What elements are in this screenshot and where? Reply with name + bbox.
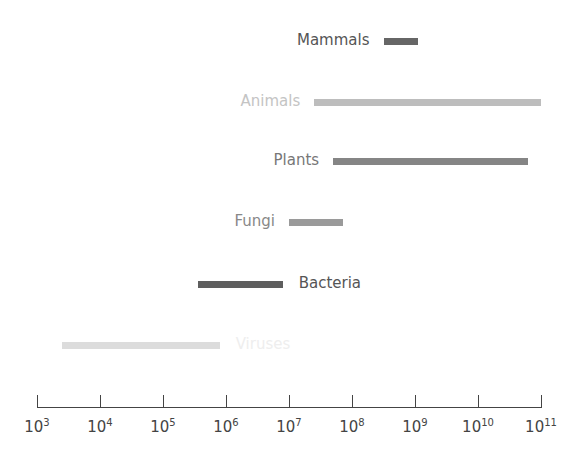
row-label-plants: Plants — [274, 151, 320, 169]
x-axis-tick-label: 109 — [402, 417, 427, 436]
range-bar-animals — [314, 99, 541, 106]
row-label-animals: Animals — [240, 92, 300, 110]
range-bar-bacteria — [198, 281, 283, 288]
row-label-bacteria: Bacteria — [299, 274, 361, 292]
x-axis-tick-label: 1011 — [525, 417, 557, 436]
x-axis-tick — [100, 395, 101, 408]
x-axis-tick-label: 106 — [213, 417, 238, 436]
x-axis-tick — [478, 395, 479, 408]
range-bar-viruses — [62, 342, 220, 349]
x-axis-tick-label: 104 — [87, 417, 112, 436]
row-label-viruses: Viruses — [236, 335, 291, 353]
x-axis-tick — [352, 395, 353, 408]
genome-size-range-chart: MammalsAnimalsPlantsFungiBacteriaViruses… — [0, 0, 576, 456]
x-axis-tick — [226, 395, 227, 408]
x-axis-tick-label: 1010 — [462, 417, 494, 436]
x-axis-tick — [163, 395, 164, 408]
x-axis-tick-label: 107 — [276, 417, 301, 436]
x-axis-tick-label: 108 — [339, 417, 364, 436]
x-axis-tick — [37, 395, 38, 408]
x-axis-tick-label: 103 — [24, 417, 49, 436]
range-bar-plants — [333, 158, 528, 165]
range-bar-mammals — [384, 38, 419, 45]
x-axis-tick — [541, 395, 542, 408]
x-axis-tick — [289, 395, 290, 408]
row-label-mammals: Mammals — [297, 31, 370, 49]
row-label-fungi: Fungi — [234, 212, 275, 230]
x-axis-tick — [415, 395, 416, 408]
range-bar-fungi — [289, 219, 343, 226]
x-axis-tick-label: 105 — [150, 417, 175, 436]
